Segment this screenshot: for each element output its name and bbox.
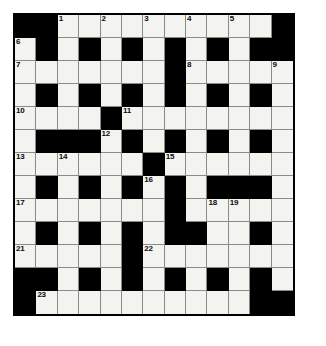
letter-cell[interactable] [272,268,293,291]
letter-cell[interactable] [229,107,250,130]
letter-cell[interactable] [122,61,143,84]
letter-cell[interactable] [79,15,100,38]
letter-cell[interactable] [143,199,164,222]
letter-cell[interactable] [186,107,207,130]
letter-cell[interactable] [36,61,57,84]
letter-cell[interactable] [186,84,207,107]
letter-cell[interactable] [101,245,122,268]
letter-cell[interactable] [165,291,186,314]
letter-cell[interactable] [79,245,100,268]
letter-cell[interactable] [186,38,207,61]
letter-cell[interactable]: 10 [15,107,36,130]
letter-cell[interactable] [229,153,250,176]
letter-cell[interactable] [207,61,228,84]
letter-cell[interactable] [58,268,79,291]
letter-cell[interactable] [36,107,57,130]
letter-cell[interactable] [36,245,57,268]
letter-cell[interactable] [272,222,293,245]
letter-cell[interactable] [58,38,79,61]
letter-cell[interactable] [79,199,100,222]
letter-cell[interactable]: 16 [143,176,164,199]
letter-cell[interactable]: 3 [143,15,164,38]
crossword-grid[interactable]: 12345678910111213141516171819212223 [15,15,293,314]
letter-cell[interactable] [36,153,57,176]
letter-cell[interactable] [272,176,293,199]
letter-cell[interactable]: 11 [122,107,143,130]
letter-cell[interactable]: 21 [15,245,36,268]
letter-cell[interactable] [250,245,271,268]
letter-cell[interactable]: 8 [186,61,207,84]
letter-cell[interactable] [15,222,36,245]
letter-cell[interactable] [229,268,250,291]
letter-cell[interactable] [79,107,100,130]
letter-cell[interactable] [101,61,122,84]
letter-cell[interactable] [229,38,250,61]
letter-cell[interactable] [143,222,164,245]
letter-cell[interactable] [165,245,186,268]
letter-cell[interactable] [272,130,293,153]
letter-cell[interactable] [58,245,79,268]
letter-cell[interactable] [272,245,293,268]
letter-cell[interactable] [229,291,250,314]
letter-cell[interactable]: 15 [165,153,186,176]
letter-cell[interactable] [272,84,293,107]
letter-cell[interactable] [250,153,271,176]
letter-cell[interactable] [250,15,271,38]
letter-cell[interactable] [79,291,100,314]
letter-cell[interactable] [143,84,164,107]
letter-cell[interactable]: 9 [272,61,293,84]
letter-cell[interactable] [143,130,164,153]
letter-cell[interactable] [229,61,250,84]
letter-cell[interactable] [207,107,228,130]
letter-cell[interactable] [250,61,271,84]
letter-cell[interactable] [122,199,143,222]
letter-cell[interactable] [143,38,164,61]
letter-cell[interactable] [15,84,36,107]
letter-cell[interactable] [229,130,250,153]
letter-cell[interactable] [250,199,271,222]
letter-cell[interactable] [207,222,228,245]
letter-cell[interactable] [122,15,143,38]
letter-cell[interactable] [58,176,79,199]
letter-cell[interactable] [207,291,228,314]
letter-cell[interactable] [101,291,122,314]
letter-cell[interactable] [58,222,79,245]
letter-cell[interactable] [186,130,207,153]
letter-cell[interactable] [143,107,164,130]
letter-cell[interactable]: 7 [15,61,36,84]
letter-cell[interactable] [272,153,293,176]
letter-cell[interactable] [207,153,228,176]
letter-cell[interactable] [101,199,122,222]
letter-cell[interactable] [58,61,79,84]
letter-cell[interactable] [143,268,164,291]
letter-cell[interactable] [186,176,207,199]
letter-cell[interactable] [122,291,143,314]
letter-cell[interactable]: 19 [229,199,250,222]
letter-cell[interactable]: 2 [101,15,122,38]
letter-cell[interactable] [58,199,79,222]
letter-cell[interactable]: 5 [229,15,250,38]
letter-cell[interactable] [101,268,122,291]
letter-cell[interactable] [186,199,207,222]
letter-cell[interactable] [207,15,228,38]
letter-cell[interactable] [101,222,122,245]
letter-cell[interactable] [101,153,122,176]
letter-cell[interactable] [101,176,122,199]
letter-cell[interactable] [186,245,207,268]
letter-cell[interactable] [229,84,250,107]
letter-cell[interactable]: 6 [15,38,36,61]
letter-cell[interactable] [229,245,250,268]
letter-cell[interactable] [58,107,79,130]
letter-cell[interactable] [250,107,271,130]
letter-cell[interactable]: 18 [207,199,228,222]
letter-cell[interactable]: 12 [101,130,122,153]
letter-cell[interactable] [15,130,36,153]
letter-cell[interactable]: 4 [186,15,207,38]
letter-cell[interactable]: 23 [36,291,57,314]
letter-cell[interactable] [79,61,100,84]
letter-cell[interactable] [15,176,36,199]
letter-cell[interactable] [79,153,100,176]
letter-cell[interactable] [58,84,79,107]
letter-cell[interactable] [186,153,207,176]
letter-cell[interactable] [207,245,228,268]
